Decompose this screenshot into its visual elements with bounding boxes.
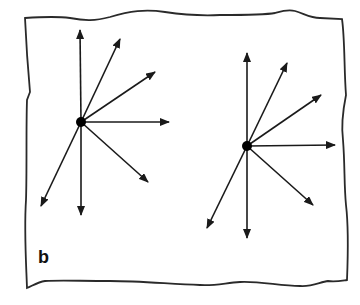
arrow-right-icon <box>247 145 335 146</box>
arrow-up-right-steep-icon <box>247 63 287 146</box>
diagram-canvas <box>0 0 360 305</box>
panel-label: b <box>38 247 49 268</box>
left-vector-fan <box>41 30 169 215</box>
right-vector-fan <box>207 53 335 238</box>
arrow-down-left-icon <box>41 122 81 206</box>
source-point-icon <box>76 117 86 127</box>
arrow-up-right-shallow-icon <box>247 95 321 146</box>
arrow-down-right-icon <box>81 122 148 182</box>
vector-fans <box>41 30 335 238</box>
wavy-frame-border <box>25 10 348 288</box>
source-point-icon <box>242 141 252 151</box>
arrow-up-icon <box>80 30 81 122</box>
arrow-down-right-icon <box>247 146 313 205</box>
arrow-down-left-icon <box>207 146 247 228</box>
